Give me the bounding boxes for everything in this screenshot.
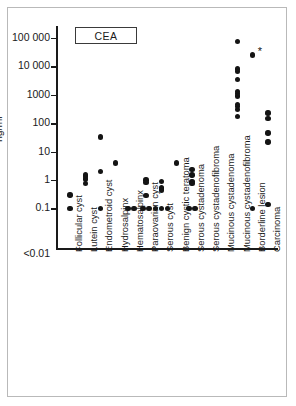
- y-axis-labels: 100 00010 00010001001010.1<0.01: [0, 26, 50, 256]
- x-axis-category-label: Paraovarian cyst: [150, 182, 159, 252]
- y-axis-tick-label: 1: [44, 174, 50, 185]
- y-axis-tick: [51, 180, 56, 181]
- x-axis-category-label: Follicular cyst: [74, 195, 83, 252]
- data-point: [174, 160, 179, 165]
- y-axis-tick-label: 10 000: [18, 60, 50, 71]
- x-axis-category-label: Lutein cyst: [89, 207, 98, 252]
- x-axis-category-label: Serous cyst: [165, 203, 174, 252]
- y-axis-tick-label: <0.01: [23, 248, 50, 259]
- data-point: [265, 139, 270, 144]
- y-axis-tick-label: 10: [38, 146, 50, 157]
- y-axis-tick: [51, 152, 56, 153]
- y-axis-tick: [51, 66, 56, 67]
- data-point: [113, 160, 118, 165]
- data-point: [98, 134, 103, 139]
- data-point: [265, 116, 270, 121]
- x-axis-category-label: Endometroid cyst: [104, 180, 113, 252]
- x-axis-category-label: Serous cystadenofibroma: [211, 146, 220, 252]
- y-axis-tick-label: 0.1: [35, 202, 50, 213]
- data-point: [235, 39, 240, 44]
- data-point: [67, 192, 72, 197]
- data-point: [98, 169, 103, 174]
- x-axis-category-label: Carcinoma: [272, 207, 281, 252]
- y-axis-tick-label: 100 000: [12, 32, 50, 43]
- data-point: [265, 130, 270, 135]
- data-point: [83, 181, 88, 186]
- y-axis-line: [56, 26, 58, 248]
- y-axis-title: ng/ml: [0, 116, 4, 142]
- data-point: [235, 114, 240, 119]
- y-axis-tick: [51, 123, 56, 124]
- data-point: [265, 110, 270, 115]
- y-axis-tick-label: 1000: [27, 89, 50, 100]
- data-point: [83, 172, 88, 177]
- x-axis-category-label: Hydrosalpinx: [120, 198, 129, 252]
- x-axis-category-label: Borderline lesion: [257, 182, 266, 252]
- data-point: [250, 52, 255, 57]
- data-point: [235, 66, 240, 71]
- data-point: [67, 206, 72, 211]
- legend-box: CEA: [75, 27, 137, 44]
- data-point: [235, 77, 240, 82]
- x-axis-category-label: Benign cystic teratoma: [181, 157, 190, 252]
- x-axis-category-label: Mucinous cystadenoma: [226, 154, 235, 253]
- y-axis-tick: [51, 95, 56, 96]
- x-axis-category-label: Hematosalpinx: [135, 190, 144, 252]
- y-axis-tick: [51, 208, 56, 209]
- x-axis-category-label: Serous cystadenoma: [196, 164, 205, 252]
- y-axis-tick-label: 100: [32, 117, 50, 128]
- annotation-asterisk: *: [258, 46, 262, 57]
- y-axis-tick: [51, 38, 56, 39]
- x-axis-category-label: Mucinous cystadenofibroma: [242, 135, 251, 252]
- x-axis-category-labels: Follicular cystLutein cystEndometroid cy…: [56, 252, 284, 400]
- cea-scatter-figure: 100 00010 00010001001010.1<0.01 ng/ml * …: [0, 0, 296, 406]
